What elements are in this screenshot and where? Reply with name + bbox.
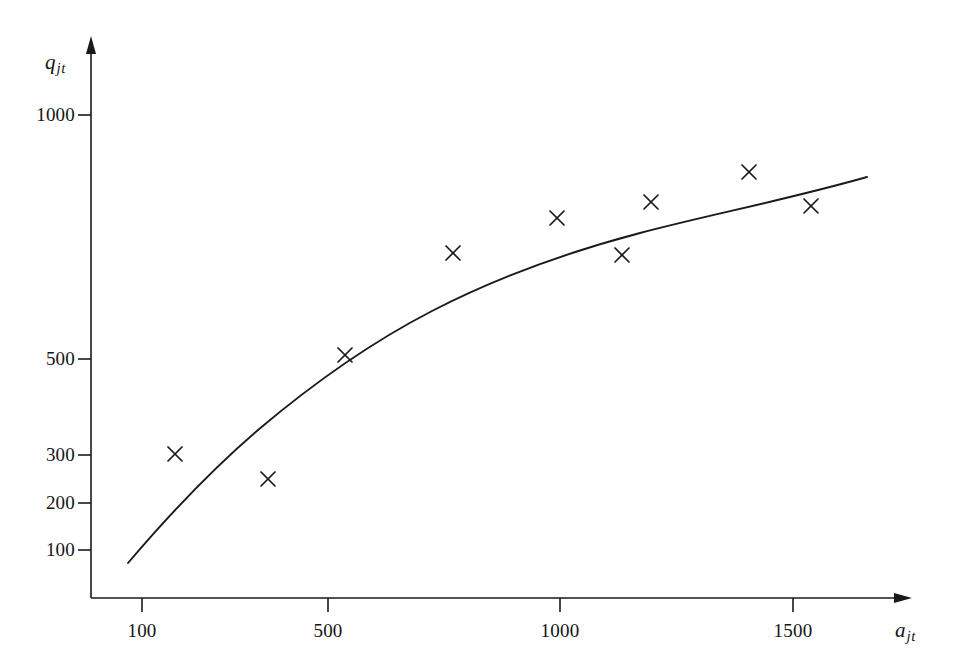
data-point-marker [644, 195, 658, 209]
y-tick-label-100: 100 [46, 539, 75, 561]
data-point-marker [742, 165, 756, 179]
x-axis-title-base: a [895, 618, 906, 642]
y-tick-label-200: 200 [46, 492, 75, 514]
x-axis-title-subscript: jt [907, 628, 916, 644]
chart-figure: 1000 500 300 200 100 100 500 1000 1500 q… [0, 0, 961, 672]
x-tick-label-500: 500 [313, 620, 342, 642]
x-tick-label-1500: 1500 [774, 620, 813, 642]
data-point-marker [261, 472, 275, 486]
x-tick-label-1000: 1000 [541, 620, 580, 642]
data-point-marker [168, 447, 182, 461]
x-axis-ticks [142, 598, 793, 612]
y-axis-title-subscript: jt [57, 60, 66, 76]
y-axis-title: qjt [45, 50, 65, 75]
data-point-marker [615, 248, 629, 262]
y-tick-label-1000: 1000 [36, 104, 75, 126]
x-axis-title: ajt [895, 618, 915, 643]
y-tick-label-300: 300 [46, 444, 75, 466]
x-axis [91, 593, 912, 603]
data-point-marker [804, 199, 818, 213]
data-point-marker [338, 348, 352, 362]
scatter-plot-canvas [0, 0, 961, 672]
y-tick-label-500: 500 [46, 348, 75, 370]
fitted-curve [128, 177, 867, 563]
y-axis [86, 36, 96, 598]
y-axis-ticks [78, 115, 91, 550]
x-tick-label-100: 100 [127, 620, 156, 642]
data-point-marker [446, 246, 460, 260]
y-axis-title-base: q [45, 50, 56, 74]
data-point-marker [550, 211, 564, 225]
